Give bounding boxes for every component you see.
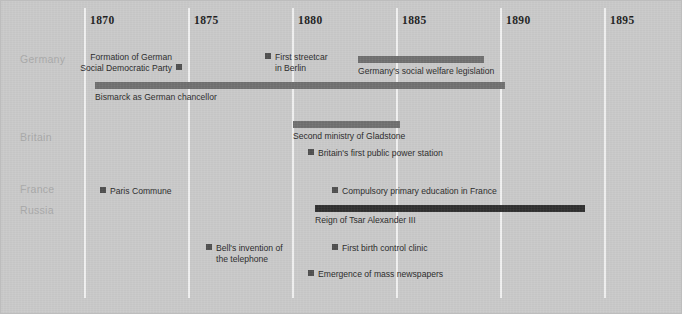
- span-label-bismarck-chancellor: Bismarck as German chancellor: [95, 92, 217, 102]
- event-emergence-mass-newspapers: Emergence of mass newspapers: [308, 269, 443, 280]
- year-label-1890: 1890: [506, 14, 531, 26]
- event-label: Compulsory primary education in France: [342, 186, 497, 197]
- event-marker-icon: [332, 244, 338, 250]
- event-marker-icon: [176, 64, 182, 70]
- span-bar-bismarck-chancellor: [95, 82, 505, 89]
- event-label: Formation of German Social Democratic Pa…: [80, 52, 172, 73]
- region-label-france: France: [20, 183, 54, 195]
- year-label-1870: 1870: [90, 14, 115, 26]
- event-paris-commune: Paris Commune: [100, 186, 172, 197]
- gridline-1875: [188, 8, 190, 298]
- year-label-1880: 1880: [298, 14, 323, 26]
- event-marker-icon: [332, 187, 338, 193]
- gridline-1890: [500, 8, 502, 298]
- span-bar-reign-tsar-alexander-iii: [315, 205, 585, 212]
- event-britain-first-power-station: Britain's first public power station: [308, 148, 443, 159]
- span-label-german-social-welfare: Germany's social welfare legislation: [358, 66, 494, 76]
- event-label: Emergence of mass newspapers: [318, 269, 443, 280]
- region-label-germany: Germany: [20, 53, 65, 65]
- event-bell-invention-telephone: Bell's invention of the telephone: [206, 243, 283, 264]
- event-marker-icon: [308, 270, 314, 276]
- event-marker-icon: [308, 149, 314, 155]
- year-label-1895: 1895: [610, 14, 635, 26]
- event-label: Paris Commune: [110, 186, 172, 197]
- timeline-chart: 1870 1875 1880 1885 1890 1895 Germany Br…: [0, 0, 682, 314]
- event-marker-icon: [265, 53, 271, 59]
- event-first-streetcar-berlin: First streetcar in Berlin: [265, 52, 328, 73]
- span-bar-german-social-welfare: [358, 56, 484, 63]
- span-bar-second-ministry-gladstone: [293, 121, 400, 128]
- event-formation-german-sdp: Formation of German Social Democratic Pa…: [60, 52, 182, 73]
- region-label-britain: Britain: [20, 131, 52, 143]
- event-label: Bell's invention of the telephone: [216, 243, 283, 264]
- event-label: First birth control clinic: [342, 243, 427, 254]
- event-marker-icon: [100, 187, 106, 193]
- region-label-russia: Russia: [20, 204, 54, 216]
- gridline-1895: [604, 8, 606, 298]
- event-label: Britain's first public power station: [318, 148, 443, 159]
- event-first-birth-control-clinic: First birth control clinic: [332, 243, 427, 254]
- year-label-1875: 1875: [194, 14, 219, 26]
- event-marker-icon: [206, 244, 212, 250]
- event-label: First streetcar in Berlin: [275, 52, 328, 73]
- span-label-reign-tsar-alexander-iii: Reign of Tsar Alexander III: [315, 215, 416, 225]
- event-compulsory-primary-education-france: Compulsory primary education in France: [332, 186, 497, 197]
- year-label-1885: 1885: [402, 14, 427, 26]
- span-label-second-ministry-gladstone: Second ministry of Gladstone: [293, 131, 405, 141]
